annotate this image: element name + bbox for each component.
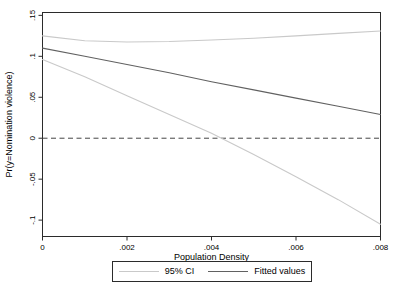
ci-lower-line xyxy=(43,60,381,225)
chart-legend: 95% CI Fitted values xyxy=(112,261,312,282)
ci-line-swatch xyxy=(119,271,159,272)
y-tick-label: .05 xyxy=(28,91,37,103)
fitted-line-swatch xyxy=(208,271,248,272)
ci-upper-line xyxy=(43,31,381,42)
y-tick-label: -.05 xyxy=(28,172,37,186)
y-tick-label: .1 xyxy=(28,52,37,59)
y-tick-label: 0 xyxy=(28,135,37,140)
y-axis-title: Pr(y=Nomination violence) xyxy=(4,72,14,178)
legend-label-fitted: Fitted values xyxy=(254,267,305,276)
legend-entry-ci: 95% CI xyxy=(119,267,195,276)
x-tick-label: 0 xyxy=(40,243,45,252)
y-tick-label: -.1 xyxy=(28,215,37,225)
legend-label-ci: 95% CI xyxy=(165,267,195,276)
y-tick-label: .15 xyxy=(28,9,37,21)
x-tick-label: .008 xyxy=(373,243,389,252)
x-tick-label: .006 xyxy=(288,243,304,252)
x-tick-label: .002 xyxy=(119,243,135,252)
margins-plot-figure: -.1-.050.05.1.150.002.004.006.008Populat… xyxy=(0,0,402,298)
plot-border xyxy=(43,13,381,237)
x-tick-label: .004 xyxy=(204,243,220,252)
fitted-line xyxy=(43,48,381,114)
chart-canvas: -.1-.050.05.1.150.002.004.006.008Populat… xyxy=(0,0,402,298)
legend-entry-fitted: Fitted values xyxy=(208,267,305,276)
